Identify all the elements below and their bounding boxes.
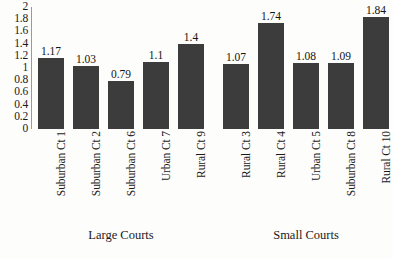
x-category-label: Rural Ct 10 — [381, 131, 393, 184]
y-axis-tick-labels: 21.81.61.41.210.80.60.40.20 — [0, 0, 28, 136]
y-tick-label: 0 — [22, 123, 28, 135]
bar-slot: 1.4 — [178, 7, 204, 129]
bar-value-label: 1.17 — [41, 45, 61, 57]
bar-value-label: 0.79 — [111, 68, 131, 80]
bar-value-label: 1.09 — [331, 50, 351, 62]
y-tick-label: 0.4 — [14, 99, 28, 111]
x-category-label: Suburban Ct 1 — [56, 131, 68, 196]
bar-slot: 1.74 — [258, 7, 284, 129]
bar-slot: 0.79 — [108, 7, 134, 129]
x-category-label: Rural Ct 4 — [276, 131, 288, 178]
bar — [293, 63, 319, 129]
bar — [258, 23, 284, 129]
bar-slot: 1.17 — [38, 7, 64, 129]
bar-value-label: 1.07 — [226, 51, 246, 63]
bar — [363, 17, 389, 129]
group-label: Small Courts — [273, 228, 339, 242]
x-category-label: Suburban Ct 8 — [346, 131, 358, 196]
y-tick-label: 0.2 — [14, 111, 28, 123]
bar-slot: 1.07 — [223, 7, 249, 129]
bar-slot: 1.09 — [328, 7, 354, 129]
y-tick-label: 1 — [22, 62, 28, 74]
plot-area: 1.171.030.791.11.41.071.741.081.091.84 — [32, 7, 374, 129]
bar-slot: 1.84 — [363, 7, 389, 129]
y-tick-label: 0.6 — [14, 86, 28, 98]
bar — [143, 62, 169, 129]
bar — [73, 66, 99, 129]
bar — [223, 64, 249, 129]
bar-value-label: 1.03 — [76, 53, 96, 65]
x-category-label: Suburban Ct 2 — [91, 131, 103, 196]
x-category-label: Rural Ct 9 — [196, 131, 208, 178]
bar-value-label: 1.84 — [366, 4, 386, 16]
x-axis-category-labels: Suburban Ct 1Suburban Ct 2Suburban Ct 6U… — [32, 131, 374, 223]
bar-slot: 1.03 — [73, 7, 99, 129]
x-category-label: Rural Ct 3 — [241, 131, 253, 178]
bar — [108, 81, 134, 129]
y-tick-label: 0.8 — [14, 74, 28, 86]
bar-slot: 1.08 — [293, 7, 319, 129]
bar-value-label: 1.4 — [184, 31, 198, 43]
group-label: Large Courts — [88, 228, 153, 242]
y-tick-label: 1.4 — [14, 38, 28, 50]
bar-value-label: 1.74 — [261, 10, 281, 22]
bar-value-label: 1.08 — [296, 50, 316, 62]
bar-slot: 1.1 — [143, 7, 169, 129]
x-category-label: Urban Ct 7 — [161, 131, 173, 181]
x-category-label: Suburban Ct 6 — [126, 131, 138, 196]
bar — [38, 58, 64, 129]
y-tick-label: 1.8 — [14, 13, 28, 25]
group-labels: Large CourtsSmall Courts — [32, 228, 374, 248]
y-tick-label: 2 — [22, 1, 28, 13]
bar — [328, 63, 354, 129]
x-category-label: Urban Ct 5 — [311, 131, 323, 181]
y-tick-label: 1.6 — [14, 25, 28, 37]
bar — [178, 44, 204, 129]
y-tick-label: 1.2 — [14, 50, 28, 62]
bar-value-label: 1.1 — [149, 49, 163, 61]
